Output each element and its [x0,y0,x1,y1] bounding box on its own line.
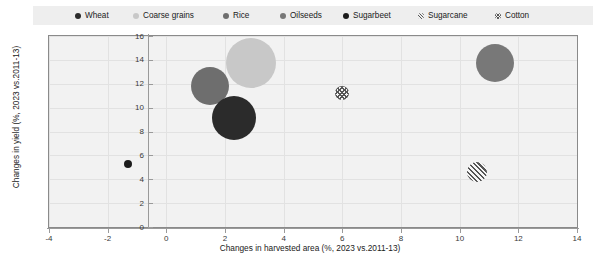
x-axis-title: Changes in harvested area (%, 2023 vs.20… [160,243,460,253]
x-tick-label: 8 [386,234,416,243]
x-tick-label: 2 [210,234,240,243]
legend-label: Cotton [505,11,529,20]
y-tick-mark [149,227,153,228]
y-tick-mark [149,179,153,180]
x-tick-label: 10 [445,234,475,243]
x-tick-label: 6 [327,234,357,243]
legend-swatch-icon [223,13,229,19]
x-tick-mark [342,229,343,233]
x-tick-label: -4 [34,234,64,243]
bubble-sugarbeet[interactable] [124,160,132,168]
legend-item-coarse-grains[interactable]: Coarse grains [133,11,194,20]
legend-label: Rice [233,11,249,20]
x-tick-mark [49,229,50,233]
x-tick-label: 0 [151,234,181,243]
x-tick-label: 14 [562,234,592,243]
x-tick-mark [577,229,578,233]
legend-swatch-icon [343,13,349,19]
y-axis-title: Changes in yield (%, 2023 vs.2011-13) [11,37,21,197]
y-tick-label: 12 [120,79,144,88]
gridline-vertical [577,36,578,227]
y-tick-mark [149,60,153,61]
legend-item-oilseeds[interactable]: Oilseeds [280,11,322,20]
x-tick-mark [518,229,519,233]
y-tick-label: 4 [120,175,144,184]
y-tick-mark [149,36,153,37]
y-tick-mark [149,155,153,156]
y-tick-mark [149,132,153,133]
bubble-coarse-grains[interactable] [226,38,276,88]
x-tick-mark [225,229,226,233]
legend-label: Wheat [85,11,109,20]
legend-item-cotton[interactable]: Cotton [495,11,529,20]
y-tick-label: 14 [120,55,144,64]
x-tick-label: -2 [93,234,123,243]
legend-item-wheat[interactable]: Wheat [75,11,109,20]
legend-label: Oilseeds [290,11,322,20]
x-tick-mark [401,229,402,233]
x-tick-mark [284,229,285,233]
legend-item-sugarcane[interactable]: Sugarcane [418,11,468,20]
y-tick-mark [149,108,153,109]
legend-label: Sugarcane [428,11,468,20]
y-tick-mark [149,203,153,204]
bubble-cotton[interactable] [335,86,349,100]
x-tick-mark [166,229,167,233]
legend-item-sugarbeet[interactable]: Sugarbeet [343,11,391,20]
y-tick-label: 0 [120,223,144,232]
chart-legend: WheatCoarse grainsRiceOilseedsSugarbeetS… [33,6,593,25]
legend-label: Coarse grains [143,11,194,20]
y-tick-mark [149,84,153,85]
y-tick-label: 16 [120,32,144,41]
legend-swatch-icon [495,13,501,19]
y-tick-label: 10 [120,103,144,112]
y-tick-label: 2 [120,199,144,208]
x-tick-mark [460,229,461,233]
legend-swatch-icon [418,13,424,19]
legend-swatch-icon [75,13,81,19]
y-tick-label: 8 [120,127,144,136]
bubble-oilseeds[interactable] [476,44,514,82]
x-tick-mark [108,229,109,233]
bubble-chart: WheatCoarse grainsRiceOilseedsSugarbeetS… [0,0,605,259]
legend-swatch-icon [133,13,139,19]
x-tick-label: 12 [503,234,533,243]
bubble-wheat[interactable] [212,96,256,140]
x-tick-label: 4 [269,234,299,243]
bubble-sugarcane[interactable] [467,162,487,182]
legend-swatch-icon [280,13,286,19]
legend-label: Sugarbeet [353,11,391,20]
legend-item-rice[interactable]: Rice [223,11,249,20]
y-tick-label: 6 [120,151,144,160]
